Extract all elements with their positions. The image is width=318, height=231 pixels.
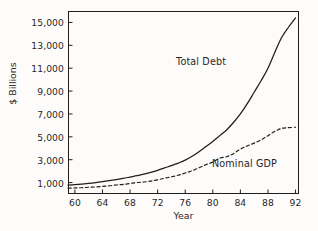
y-tick-label: 3,000 — [6, 154, 64, 165]
chart-figure: 1,0003,0005,0007,0009,00011,00013,00015,… — [0, 0, 318, 231]
x-tick-label: 80 — [198, 197, 228, 208]
series-label-total-debt: Total Debt — [176, 56, 226, 67]
x-tick-label: 68 — [115, 197, 145, 208]
x-tick-label: 64 — [87, 197, 117, 208]
y-tick-label: 1,000 — [6, 177, 64, 188]
x-tick-label: 72 — [143, 197, 173, 208]
x-tick-label: 84 — [225, 197, 255, 208]
x-axis-tick-labels: 606468727680848892 — [0, 197, 318, 211]
y-axis-title: $ Billions — [7, 44, 18, 124]
x-axis-title: Year — [68, 210, 299, 221]
y-tick-label: 5,000 — [6, 131, 64, 142]
x-tick-label: 92 — [281, 197, 311, 208]
x-tick-label: 60 — [60, 197, 90, 208]
x-tick-label: 88 — [253, 197, 283, 208]
series-label-nominal-gdp: Nominal GDP — [212, 158, 277, 169]
x-tick-label: 76 — [170, 197, 200, 208]
y-tick-label: 15,000 — [6, 17, 64, 28]
